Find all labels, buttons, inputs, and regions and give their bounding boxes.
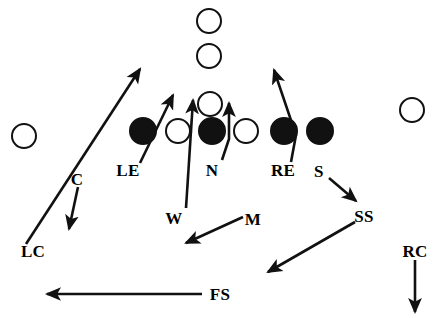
arrow-s [329,178,356,201]
arrow-m [186,217,243,243]
label-s: S [314,163,324,180]
offense-wide-right [399,97,425,123]
arrow-ss [268,222,355,272]
arrow-c [69,187,78,229]
label-w: W [165,210,182,227]
offense-receiver-mid [196,43,222,69]
label-le: LE [116,162,139,179]
arrow-w [186,100,193,208]
football-defense-diagram: LCCLEWNMRESSSFSRC [0,0,439,318]
offense-lineman-left [165,118,191,144]
offense-quarterback [197,91,223,117]
offense-wide-left [11,123,37,149]
label-ss: SS [354,208,374,225]
offense-receiver-deep [196,8,222,34]
defense-left-end [129,117,157,145]
label-c: C [71,171,84,188]
label-rc: RC [402,243,427,260]
label-lc: LC [21,243,45,260]
label-re: RE [271,162,295,179]
label-n: N [206,162,219,179]
arrow-lc [26,69,140,244]
label-fs: FS [210,286,230,303]
offense-lineman-right [233,118,259,144]
arrow-re [274,70,296,162]
label-m: M [245,211,261,228]
defense-strong-tackle [306,117,334,145]
defense-nose-tackle [198,117,226,145]
defense-right-end [270,117,298,145]
